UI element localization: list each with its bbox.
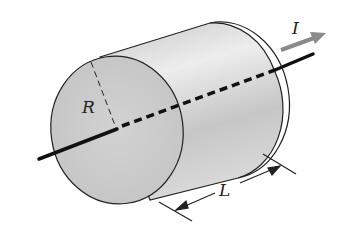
- length-label: L: [218, 180, 230, 200]
- cylinder-diagram: R I L: [0, 0, 341, 231]
- current-arrow: [281, 32, 326, 50]
- axis-line-exit: [275, 54, 313, 70]
- radius-label: R: [81, 97, 95, 117]
- current-label: I: [291, 18, 299, 38]
